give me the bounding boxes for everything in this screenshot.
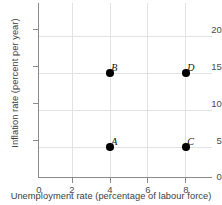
scatter-chart: A B C D 20 15 10 5 0 0 2 4 6 8 Unemploym… [0,0,222,205]
data-point-c: C [182,143,190,151]
data-point-d: D [182,69,190,77]
data-point-label-b: B [111,62,117,73]
y-axis-tick [33,66,39,67]
x-axis-title: Unemployment rate (percentage of labour … [0,191,222,201]
gridline-vertical [110,3,111,177]
gridline-horizontal [39,36,212,37]
plot-area: A B C D [39,3,212,177]
gridline-vertical [147,3,148,177]
x-axis-tick [72,178,73,183]
data-point-label-a: A [111,136,117,147]
gridline-horizontal [39,110,212,111]
data-point-a: A [106,143,114,151]
y-axis-tick [33,29,39,30]
gridline-vertical [185,3,186,177]
y-axis-tick [33,140,39,141]
data-point-b: B [106,69,114,77]
gridline-vertical [72,3,73,177]
y-axis-tick-label: 15 [194,61,222,72]
y-axis-tick [33,103,39,104]
data-point-label-c: C [187,136,194,147]
x-axis-tick [110,178,111,183]
y-axis-tick-label: 5 [194,135,222,146]
y-axis-tick-label: 20 [194,24,222,35]
x-axis-tick [147,178,148,183]
x-axis-tick [185,178,186,183]
y-axis-tick-label: 10 [194,98,222,109]
y-axis-title: Inflation rate (percent per year) [10,0,20,168]
y-axis-tick-label: 0 [194,171,222,182]
